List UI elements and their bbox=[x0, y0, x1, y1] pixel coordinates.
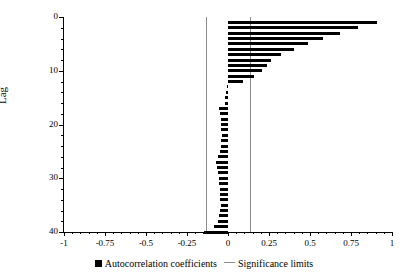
autocorrelation-bar bbox=[204, 231, 228, 234]
x-axis-tick-major bbox=[187, 232, 188, 236]
autocorrelation-bar bbox=[222, 134, 228, 137]
x-axis-tick-major bbox=[146, 232, 147, 236]
autocorrelation-bar bbox=[228, 32, 340, 35]
x-axis-tick-label: 0 bbox=[208, 238, 248, 248]
autocorrelation-bar bbox=[220, 188, 229, 191]
y-axis-tick-minor bbox=[61, 200, 63, 201]
x-axis-tick-minor bbox=[162, 232, 163, 234]
legend-item-autocorrelation: Autocorrelation coefficients bbox=[95, 258, 217, 269]
autocorrelation-bar bbox=[221, 118, 228, 121]
x-axis-tick-major bbox=[310, 232, 311, 236]
autocorrelation-bar bbox=[217, 166, 228, 169]
y-axis-tick-major bbox=[59, 125, 63, 126]
autocorrelation-bar bbox=[228, 42, 308, 45]
autocorrelation-bar bbox=[220, 150, 228, 153]
autocorrelation-bar bbox=[228, 75, 254, 78]
y-axis-tick-major bbox=[59, 71, 63, 72]
x-axis-tick-minor bbox=[89, 232, 90, 234]
autocorrelation-bar bbox=[220, 112, 228, 115]
y-axis-title: Lag bbox=[0, 87, 8, 104]
y-axis-tick-minor bbox=[61, 157, 63, 158]
chart-legend: Autocorrelation coefficients Significanc… bbox=[0, 258, 408, 269]
autocorrelation-bar bbox=[218, 220, 228, 223]
x-axis-tick-minor bbox=[359, 232, 360, 234]
x-axis-tick-minor bbox=[335, 232, 336, 234]
autocorrelation-bar bbox=[219, 182, 228, 185]
y-axis-tick-minor bbox=[61, 168, 63, 169]
autocorrelation-bar bbox=[225, 96, 228, 99]
x-axis-tick-minor bbox=[195, 232, 196, 234]
y-axis-tick-minor bbox=[61, 221, 63, 222]
x-axis-tick-minor bbox=[367, 232, 368, 234]
y-axis-tick-minor bbox=[61, 135, 63, 136]
y-axis-tick-minor bbox=[61, 49, 63, 50]
autocorrelation-bar bbox=[219, 107, 228, 110]
x-axis-tick-minor bbox=[285, 232, 286, 234]
x-axis-tick-minor bbox=[138, 232, 139, 234]
x-axis-tick-minor bbox=[113, 232, 114, 234]
line-swatch-icon bbox=[224, 262, 235, 263]
autocorrelation-bar bbox=[228, 48, 294, 51]
x-axis-tick-minor bbox=[261, 232, 262, 234]
x-axis-tick-minor bbox=[236, 232, 237, 234]
autocorrelation-bar bbox=[218, 171, 228, 174]
autocorrelation-bar bbox=[228, 53, 281, 56]
y-axis-tick-major bbox=[59, 178, 63, 179]
x-axis-tick-minor bbox=[80, 232, 81, 234]
x-axis-tick-minor bbox=[179, 232, 180, 234]
y-axis-tick-major bbox=[59, 17, 63, 18]
y-axis-tick-minor bbox=[61, 60, 63, 61]
legend-item-significance: Significance limits bbox=[224, 258, 313, 269]
autocorrelation-bar bbox=[221, 123, 228, 126]
autocorrelation-bar bbox=[219, 177, 229, 180]
x-axis-tick-minor bbox=[253, 232, 254, 234]
x-axis-tick-minor bbox=[97, 232, 98, 234]
x-axis-tick-major bbox=[64, 232, 65, 236]
autocorrelation-bar bbox=[228, 59, 271, 62]
x-axis-tick-label: 0.25 bbox=[249, 238, 289, 248]
autocorrelation-chart: Lag -1-0.75-0.5-0.2500.250.50.751 010203… bbox=[0, 0, 408, 278]
x-axis-tick-minor bbox=[130, 232, 131, 234]
y-axis-tick-minor bbox=[61, 39, 63, 40]
autocorrelation-bar bbox=[221, 139, 228, 142]
x-axis-tick-label: 1 bbox=[372, 238, 408, 248]
x-axis-tick-label: 0.5 bbox=[290, 238, 330, 248]
autocorrelation-bar bbox=[225, 102, 228, 105]
y-axis-tick-label: 10 bbox=[38, 66, 58, 75]
legend-label-autocorrelation: Autocorrelation coefficients bbox=[105, 258, 217, 269]
y-axis-tick-label: 20 bbox=[38, 120, 58, 129]
legend-label-significance: Significance limits bbox=[238, 258, 313, 269]
y-axis-tick-minor bbox=[61, 82, 63, 83]
square-swatch-icon bbox=[95, 260, 102, 267]
autocorrelation-bar bbox=[220, 193, 228, 196]
x-axis-tick-minor bbox=[277, 232, 278, 234]
autocorrelation-bar bbox=[228, 26, 358, 29]
x-axis-tick-minor bbox=[376, 232, 377, 234]
autocorrelation-bar bbox=[228, 21, 377, 24]
y-axis-tick-minor bbox=[61, 146, 63, 147]
x-axis-tick-minor bbox=[384, 232, 385, 234]
y-axis-tick-label: 0 bbox=[38, 12, 58, 21]
autocorrelation-bar bbox=[226, 91, 228, 94]
y-axis-tick-minor bbox=[61, 92, 63, 93]
x-axis-tick-major bbox=[392, 232, 393, 236]
x-axis-tick-label: -0.5 bbox=[126, 238, 166, 248]
autocorrelation-bar bbox=[219, 214, 228, 217]
autocorrelation-bar bbox=[221, 145, 228, 148]
autocorrelation-bar bbox=[214, 225, 228, 228]
x-axis-tick-label: -0.75 bbox=[85, 238, 125, 248]
x-axis-tick-label: -1 bbox=[44, 238, 84, 248]
autocorrelation-bar bbox=[227, 85, 228, 88]
autocorrelation-bar bbox=[228, 80, 243, 83]
x-axis-tick-minor bbox=[154, 232, 155, 234]
x-axis-tick-minor bbox=[343, 232, 344, 234]
autocorrelation-bar bbox=[221, 128, 228, 131]
y-axis-tick-minor bbox=[61, 189, 63, 190]
x-axis-tick-major bbox=[269, 232, 270, 236]
autocorrelation-bar bbox=[216, 161, 228, 164]
x-axis-tick-minor bbox=[244, 232, 245, 234]
y-axis-tick-label: 40 bbox=[38, 227, 58, 236]
y-axis-tick-minor bbox=[61, 211, 63, 212]
x-axis-tick-minor bbox=[318, 232, 319, 234]
autocorrelation-bar bbox=[228, 69, 262, 72]
